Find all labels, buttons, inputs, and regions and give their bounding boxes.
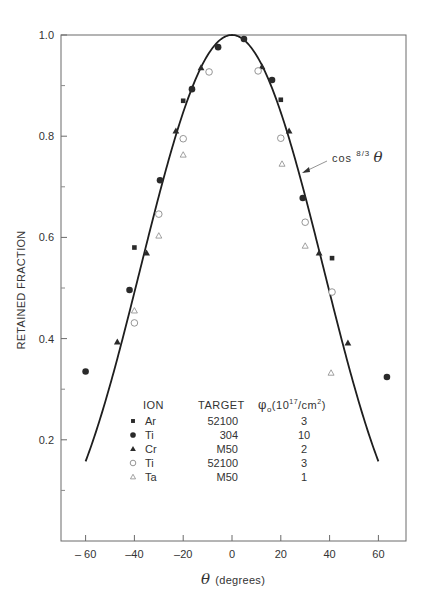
filled-square-marker-icon: [330, 256, 335, 261]
open-circle-marker-icon: [131, 320, 138, 327]
legend-ion: Cr: [145, 443, 157, 455]
filled-triangle-marker-icon: [130, 446, 136, 451]
legend-fluence: 2: [301, 443, 307, 455]
legend-ion: Ti: [145, 429, 154, 441]
legend-target: M50: [217, 471, 238, 483]
filled-circle-marker-icon: [189, 86, 196, 93]
y-axis-title: RETAINED FRACTION: [15, 230, 27, 349]
legend-row: Ti30410: [130, 429, 310, 441]
open-triangle-marker-icon: [279, 161, 285, 166]
legend-ion: Ar: [145, 415, 156, 427]
legend-header: ION: [143, 399, 164, 411]
y-tick-label: 1.0: [39, 29, 54, 41]
x-axis-title: θ (degrees): [201, 570, 265, 588]
legend-header: TARGET: [198, 399, 245, 411]
filled-square-marker-icon: [181, 98, 186, 103]
filled-triangle-marker-icon: [114, 339, 121, 345]
y-tick-label: 0.4: [39, 333, 54, 345]
filled-circle-marker-icon: [384, 374, 391, 381]
legend-row: Ar521003: [131, 415, 307, 427]
filled-square-marker-icon: [131, 419, 135, 423]
legend-target: 52100: [207, 457, 238, 469]
data-points: [82, 36, 390, 381]
x-tick-label: 40: [323, 548, 335, 560]
open-triangle-marker-icon: [130, 474, 135, 479]
legend: IONTARGETφo(1017/cm2)Ar521003Ti30410CrM5…: [130, 398, 326, 483]
legend-ion: Ta: [145, 471, 158, 483]
open-triangle-marker-icon: [328, 370, 334, 375]
filled-circle-marker-icon: [82, 368, 89, 375]
filled-triangle-marker-icon: [316, 249, 323, 255]
open-triangle-marker-icon: [131, 308, 137, 313]
chart: 0.20.40.60.81.0 – 60–40–200204060 RETAIN…: [0, 0, 433, 613]
legend-ion: Ti: [145, 457, 154, 469]
arrow-head-icon: [302, 167, 310, 173]
y-tick-label: 0.2: [39, 434, 54, 446]
x-tick-label: – 60: [75, 548, 96, 560]
curve-annotation: cos 8/3 θ: [302, 148, 384, 173]
x-tick-label: –20: [174, 548, 192, 560]
open-triangle-marker-icon: [156, 233, 162, 238]
legend-row: CrM502: [130, 443, 307, 455]
filled-circle-marker-icon: [269, 77, 276, 84]
y-tick-label: 0.6: [39, 231, 54, 243]
filled-circle-marker-icon: [157, 177, 164, 184]
filled-circle-marker-icon: [126, 287, 133, 294]
open-circle-marker-icon: [302, 219, 309, 226]
x-tick-label: 60: [372, 548, 384, 560]
open-triangle-marker-icon: [302, 243, 308, 248]
legend-fluence: 3: [301, 457, 307, 469]
legend-fluence: 1: [301, 471, 307, 483]
x-tick-label: 20: [275, 548, 287, 560]
open-circle-marker-icon: [206, 69, 213, 76]
y-axis: 0.20.40.60.81.0: [39, 29, 67, 490]
filled-square-marker-icon: [132, 245, 137, 250]
x-tick-label: –40: [125, 548, 143, 560]
filled-circle-marker-icon: [299, 195, 306, 202]
filled-triangle-marker-icon: [198, 64, 205, 70]
filled-circle-marker-icon: [130, 432, 136, 438]
filled-circle-marker-icon: [241, 36, 248, 43]
legend-header-fluence: φo(1017/cm2): [258, 398, 326, 414]
open-circle-marker-icon: [329, 289, 336, 296]
open-circle-marker-icon: [156, 211, 163, 218]
filled-square-marker-icon: [279, 97, 284, 102]
open-circle-marker-icon: [130, 460, 136, 466]
y-tick-label: 0.8: [39, 130, 54, 142]
legend-target: 304: [220, 429, 238, 441]
filled-triangle-marker-icon: [345, 340, 352, 346]
open-circle-marker-icon: [180, 135, 187, 142]
x-axis: – 60–40–200204060: [75, 535, 385, 560]
legend-fluence: 10: [298, 429, 310, 441]
x-tick-label: 0: [229, 548, 235, 560]
legend-fluence: 3: [301, 415, 307, 427]
svg-text:cos 8/3 θ: cos 8/3 θ: [332, 148, 384, 166]
legend-row: TaM501: [130, 471, 307, 483]
legend-row: Ti521003: [130, 457, 307, 469]
filled-circle-marker-icon: [215, 44, 222, 51]
open-circle-marker-icon: [278, 135, 285, 142]
fit-curve: [86, 35, 379, 461]
svg-text:θ (degrees): θ (degrees): [201, 570, 265, 588]
legend-target: 52100: [207, 415, 238, 427]
open-triangle-marker-icon: [180, 152, 186, 157]
open-circle-marker-icon: [255, 68, 262, 75]
legend-target: M50: [217, 443, 238, 455]
